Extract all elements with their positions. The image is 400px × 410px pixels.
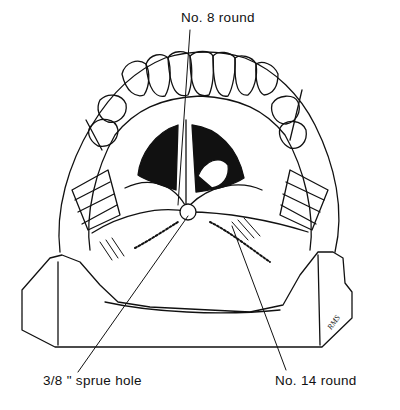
dental-arch: [59, 52, 339, 263]
label-no14-round: No. 14 round: [275, 373, 357, 388]
cast-base: [22, 252, 352, 347]
dental-cast-illustration: [0, 0, 400, 410]
label-sprue-hole: 3/8 " sprue hole: [43, 373, 142, 388]
label-no8-round: No. 8 round: [181, 10, 255, 25]
leader-line-no8: [178, 30, 190, 205]
leader-line-no14: [232, 226, 286, 370]
